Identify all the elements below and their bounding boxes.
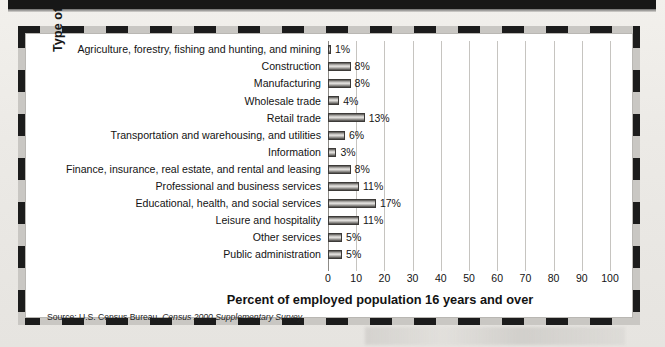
category-label-column: Agriculture, forestry, fishing and hunti… [85, 41, 325, 271]
bar-value-label: 8% [355, 78, 370, 89]
x-tick-label: 50 [463, 273, 475, 284]
scan-top-strip [8, 0, 656, 9]
gridline [610, 41, 611, 271]
category-label: Other services [253, 229, 321, 246]
bar[interactable] [328, 113, 365, 122]
bar-value-label: 5% [346, 249, 361, 260]
category-label: Educational, health, and social services [136, 195, 322, 212]
bar-value-label: 11% [363, 215, 383, 226]
bar-value-label: 11% [363, 181, 383, 192]
plot-area: 1%8%8%4%13%6%3%8%11%17%11%5%5% [328, 41, 610, 271]
bar-rows: 1%8%8%4%13%6%3%8%11%17%11%5%5% [328, 41, 610, 271]
bar-row[interactable]: 11% [328, 212, 610, 229]
bar[interactable] [328, 62, 351, 71]
x-axis-title: Percent of employed population 16 years … [155, 292, 605, 307]
bar-row[interactable]: 5% [328, 246, 610, 263]
category-label: Retail trade [267, 109, 321, 126]
frame-dash-right [633, 26, 640, 325]
x-tick-label: 20 [379, 273, 391, 284]
bar-value-label: 17% [380, 198, 401, 209]
scan-smudge [365, 327, 625, 345]
x-tick-label: 40 [435, 273, 447, 284]
bar-value-label: 1% [335, 44, 350, 55]
x-tick-label: 70 [520, 273, 532, 284]
x-tick-label: 100 [601, 273, 619, 284]
bar-value-label: 13% [369, 113, 390, 124]
bar-row[interactable]: 17% [328, 195, 610, 212]
bar-row[interactable]: 5% [328, 229, 610, 246]
bar[interactable] [328, 182, 359, 191]
category-label: Public administration [223, 246, 321, 263]
bar-chart: Type of Industry Agriculture, forestry, … [25, 33, 633, 318]
bar-value-label: 3% [340, 147, 355, 158]
figure-frame: Type of Industry Agriculture, forestry, … [18, 26, 640, 325]
bar-row[interactable]: 6% [328, 127, 610, 144]
x-tick-label: 10 [350, 273, 362, 284]
y-axis-title: Type of Industry [51, 0, 65, 83]
bar-row[interactable]: 8% [328, 58, 610, 75]
scanned-page: Type of Industry Agriculture, forestry, … [0, 0, 665, 347]
x-tick-label: 0 [325, 273, 331, 284]
bar[interactable] [328, 131, 345, 140]
bar-value-label: 8% [355, 164, 370, 175]
source-note: Source: U.S. Census Bureau, Census 2000 … [47, 312, 304, 322]
category-label: Information [268, 144, 321, 161]
bar[interactable] [328, 250, 342, 259]
bar-row[interactable]: 3% [328, 144, 610, 161]
x-tick-label: 80 [548, 273, 560, 284]
bar[interactable] [328, 45, 331, 54]
bar-value-label: 8% [355, 61, 370, 72]
bar[interactable] [328, 233, 342, 242]
bar-value-label: 6% [349, 130, 364, 141]
bar-row[interactable]: 13% [328, 109, 610, 126]
x-tick-label: 90 [576, 273, 588, 284]
category-label: Finance, insurance, real estate, and ren… [66, 161, 321, 178]
bar-row[interactable]: 8% [328, 75, 610, 92]
bar-value-label: 4% [343, 96, 358, 107]
category-label: Wholesale trade [244, 92, 321, 109]
category-label: Construction [262, 58, 321, 75]
x-tick-label: 30 [407, 273, 419, 284]
bar-row[interactable]: 4% [328, 92, 610, 109]
frame-dash-top [18, 26, 640, 33]
bar[interactable] [328, 199, 376, 208]
category-label: Professional and business services [156, 178, 321, 195]
x-tick-label: 60 [491, 273, 503, 284]
bar[interactable] [328, 96, 339, 105]
bar-row[interactable]: 8% [328, 161, 610, 178]
source-prefix: Source: U.S. Census Bureau, [47, 312, 162, 322]
bar-row[interactable]: 1% [328, 41, 610, 58]
category-label: Manufacturing [254, 75, 321, 92]
category-label: Agriculture, forestry, fishing and hunti… [77, 41, 321, 58]
x-axis-tick-labels: 0102030405060708090100 [328, 273, 610, 289]
bar[interactable] [328, 216, 359, 225]
bar[interactable] [328, 79, 351, 88]
source-italic: Census 2000 Supplementary Survey. [162, 312, 304, 322]
bar-value-label: 5% [346, 232, 361, 243]
bar[interactable] [328, 165, 351, 174]
bar-row[interactable]: 11% [328, 178, 610, 195]
category-label: Transportation and warehousing, and util… [111, 127, 321, 144]
frame-dash-left [18, 26, 25, 325]
category-label: Leisure and hospitality [216, 212, 321, 229]
bar[interactable] [328, 148, 336, 157]
